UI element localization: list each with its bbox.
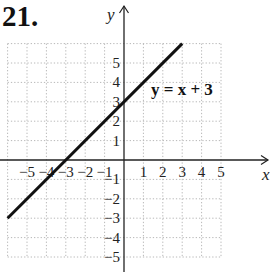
equation-label: y = x + 3	[151, 80, 213, 99]
y-tick-label: −2	[104, 191, 120, 207]
x-tick-label: 3	[178, 164, 186, 180]
x-tick-label: 2	[159, 164, 167, 180]
y-tick-label: −4	[104, 230, 120, 246]
plot-line	[8, 44, 183, 219]
y-tick-label: −5	[104, 249, 120, 265]
y-tick-label: −3	[104, 210, 120, 226]
x-tick-label: 4	[198, 164, 206, 180]
line-y-equals-x-plus-3	[8, 44, 183, 219]
y-tick-label: −1	[104, 171, 120, 187]
x-tick-label: −5	[19, 164, 35, 180]
x-tick-label: −2	[77, 164, 93, 180]
x-axis-label: x	[261, 165, 270, 184]
y-axis-label: y	[105, 5, 115, 24]
y-tick-label: 1	[113, 133, 121, 149]
x-tick-label: 1	[140, 164, 148, 180]
y-tick-label: 2	[113, 113, 121, 129]
y-tick-label: 5	[113, 55, 121, 71]
coordinate-plane: −5−4−3−2−11234554321−1−2−3−4−5 x y y = x…	[0, 0, 273, 272]
y-tick-label: 4	[113, 74, 121, 90]
x-tick-label: 5	[217, 164, 225, 180]
axes	[0, 6, 268, 272]
